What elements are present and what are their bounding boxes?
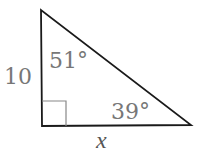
side-label-x: x: [95, 127, 107, 153]
triangle-diagram: 10 51° 39° x: [0, 0, 203, 162]
side-label-10: 10: [4, 64, 32, 89]
angle-label-51: 51°: [49, 48, 88, 73]
right-angle-marker: [42, 101, 66, 126]
angle-label-39: 39°: [111, 99, 150, 124]
